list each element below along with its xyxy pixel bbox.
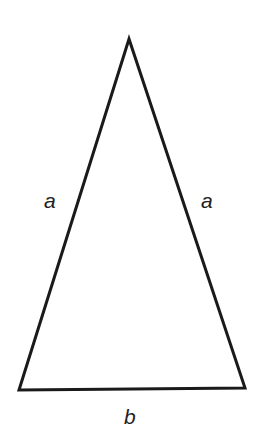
triangle-diagram: a a b <box>0 0 261 444</box>
isosceles-triangle <box>19 39 245 390</box>
right-side-label: a <box>201 189 213 212</box>
left-side-label: a <box>44 189 56 212</box>
base-label: b <box>124 405 136 428</box>
